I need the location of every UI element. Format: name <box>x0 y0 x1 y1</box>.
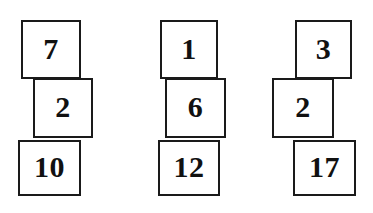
block-stack-3-top[interactable]: 3 <box>295 20 352 79</box>
block-stack-2-bottom[interactable]: 12 <box>158 140 220 196</box>
block-stack-3-bottom[interactable]: 17 <box>293 140 356 196</box>
block-label: 7 <box>43 34 59 64</box>
block-stack-2-middle[interactable]: 6 <box>165 78 226 138</box>
block-label: 12 <box>174 152 205 182</box>
block-label: 6 <box>188 92 204 122</box>
diagram-canvas: 7 2 10 1 6 12 3 2 17 <box>0 0 373 213</box>
block-label: 2 <box>55 92 71 122</box>
block-label: 3 <box>316 34 332 64</box>
block-label: 1 <box>181 34 197 64</box>
block-stack-1-middle[interactable]: 2 <box>33 78 93 138</box>
block-label: 17 <box>309 152 340 182</box>
block-stack-3-middle[interactable]: 2 <box>272 78 334 138</box>
block-label: 10 <box>34 152 65 182</box>
block-stack-1-bottom[interactable]: 10 <box>18 140 81 196</box>
block-stack-1-top[interactable]: 7 <box>21 20 81 79</box>
block-stack-2-top[interactable]: 1 <box>160 20 218 79</box>
block-label: 2 <box>295 92 311 122</box>
